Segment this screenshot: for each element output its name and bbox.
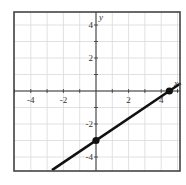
y-axis-label: y [98,12,103,22]
coordinate-plane: -4-22442-2-4 y x [0,0,186,185]
x-tick-label: -4 [27,95,35,105]
y-tick-label: -4 [86,152,94,162]
y-tick-label: 2 [89,53,94,63]
x-tick-label: 2 [126,95,131,105]
axes [14,12,180,171]
point-marker [92,137,99,144]
y-tick-label: 4 [89,20,94,30]
x-tick-label: -2 [60,95,68,105]
y-tick-label: -2 [86,119,94,129]
point-marker [166,87,173,94]
